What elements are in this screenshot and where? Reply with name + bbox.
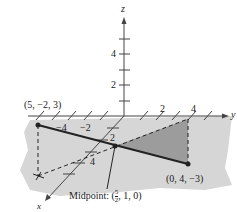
midpoint-label: Midpoint: (52, 1, 0) (69, 189, 142, 204)
neg-y-tick-4: −4 (56, 123, 67, 133)
x-axis-label: x (37, 202, 41, 211)
midpoint-suffix: , 1, 0) (118, 190, 141, 201)
y-tick-2: 2 (160, 104, 165, 114)
neg-y-tick-2: −2 (80, 123, 91, 133)
z-axis-label: z (121, 4, 125, 14)
z-axis-arrow (122, 17, 127, 24)
y-axis-label: y (231, 110, 235, 120)
point-p1 (36, 123, 41, 128)
point-p2-label: (0, 4, −3) (166, 174, 203, 184)
x-tick-2: 2 (110, 133, 115, 143)
y-tick-4: 4 (191, 104, 196, 114)
midpoint-prefix: Midpoint: ( (69, 190, 115, 201)
z-tick-2: 2 (111, 80, 116, 90)
diagram-3d-midpoint: z 4 2 y 2 4 −4 −2 2 4 x (5, −2, 3) (0, 4… (0, 0, 237, 212)
point-p2 (186, 162, 191, 167)
point-p1-label: (5, −2, 3) (24, 100, 61, 110)
x-tick-4: 4 (90, 157, 95, 167)
z-tick-4: 4 (111, 49, 116, 59)
